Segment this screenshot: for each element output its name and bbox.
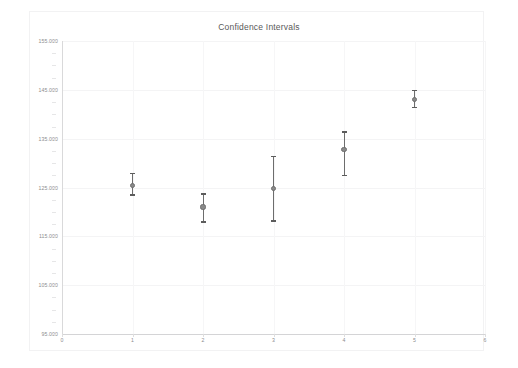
y-axis-minor-tick — [52, 249, 56, 250]
error-bar-cap-lower — [412, 107, 417, 108]
y-axis-tick-label: 105.000 — [6, 282, 58, 288]
y-axis-minor-tick — [52, 114, 56, 115]
error-bar-cap-upper — [342, 131, 347, 132]
data-point-marker — [341, 147, 346, 152]
error-bar-cap-upper — [412, 90, 417, 91]
y-axis-tick-label: 155.000 — [6, 38, 58, 44]
x-axis-tick-label: 4 — [334, 337, 354, 343]
error-bar-cap-upper — [201, 193, 206, 194]
x-axis-tick-label: 3 — [264, 337, 284, 343]
y-axis-minor-tick — [52, 224, 56, 225]
y-axis-minor-tick — [52, 102, 56, 103]
y-axis-tick-label: 115.000 — [6, 233, 58, 239]
y-axis-minor-tick — [52, 334, 56, 335]
y-axis-minor-tick — [52, 236, 56, 237]
y-axis-tick-label: 145.000 — [6, 87, 58, 93]
y-axis-minor-tick — [52, 188, 56, 189]
data-point-marker — [200, 204, 205, 209]
gridline-x — [344, 41, 345, 334]
y-axis-line — [62, 41, 63, 335]
chart-title: Confidence Intervals — [0, 22, 518, 32]
data-point-marker — [412, 97, 417, 102]
y-axis-minor-tick — [52, 200, 56, 201]
y-axis-minor-tick — [52, 139, 56, 140]
error-bar-cap-lower — [271, 220, 276, 221]
gridline-x — [415, 41, 416, 334]
x-axis-tick-mark — [203, 334, 204, 337]
y-axis-minor-tick — [52, 261, 56, 262]
y-axis-minor-tick — [52, 175, 56, 176]
x-axis-tick-mark — [274, 334, 275, 337]
y-axis-minor-tick — [52, 212, 56, 213]
error-bar-cap-upper — [130, 173, 135, 174]
error-bar-cap-lower — [201, 221, 206, 222]
chart-canvas: Confidence Intervals 95.000105.000115.00… — [0, 0, 518, 368]
error-bar-line — [344, 131, 345, 176]
y-axis-minor-tick — [52, 127, 56, 128]
y-axis-minor-tick — [52, 90, 56, 91]
x-axis-tick-mark — [415, 334, 416, 337]
data-point-marker — [271, 186, 276, 191]
x-axis-tick-mark — [344, 334, 345, 337]
error-bar-cap-lower — [342, 175, 347, 176]
y-axis-minor-tick — [52, 41, 56, 42]
x-axis-tick-label: 6 — [475, 337, 495, 343]
x-axis-tick-label: 0 — [52, 337, 72, 343]
y-axis-minor-tick — [52, 273, 56, 274]
x-axis-tick-label: 2 — [193, 337, 213, 343]
x-axis-tick-mark — [133, 334, 134, 337]
y-axis-minor-tick — [52, 65, 56, 66]
y-axis-minor-tick — [52, 310, 56, 311]
y-axis-tick-labels: 95.000105.000115.000125.000135.000145.00… — [0, 41, 58, 334]
x-axis-tick-mark — [62, 334, 63, 337]
error-bar-cap-lower — [130, 194, 135, 195]
y-axis-minor-tick — [52, 53, 56, 54]
y-axis-minor-tick — [52, 163, 56, 164]
y-axis-minor-tick — [52, 151, 56, 152]
y-axis-minor-tick — [52, 322, 56, 323]
gridline-x — [485, 41, 486, 334]
y-axis-minor-tick — [52, 285, 56, 286]
error-bar-cap-upper — [271, 156, 276, 157]
x-axis-tick-label: 5 — [405, 337, 425, 343]
gridline-x — [203, 41, 204, 334]
y-axis-minor-tick — [52, 78, 56, 79]
y-axis-tick-label: 135.000 — [6, 136, 58, 142]
plot-area — [62, 41, 485, 334]
y-axis-minor-tick — [52, 297, 56, 298]
chart-bottom-strip — [29, 352, 484, 366]
x-axis-tick-labels: 0123456 — [0, 337, 518, 349]
x-axis-tick-mark — [485, 334, 486, 337]
y-axis-tick-label: 125.000 — [6, 185, 58, 191]
x-axis-tick-label: 1 — [123, 337, 143, 343]
